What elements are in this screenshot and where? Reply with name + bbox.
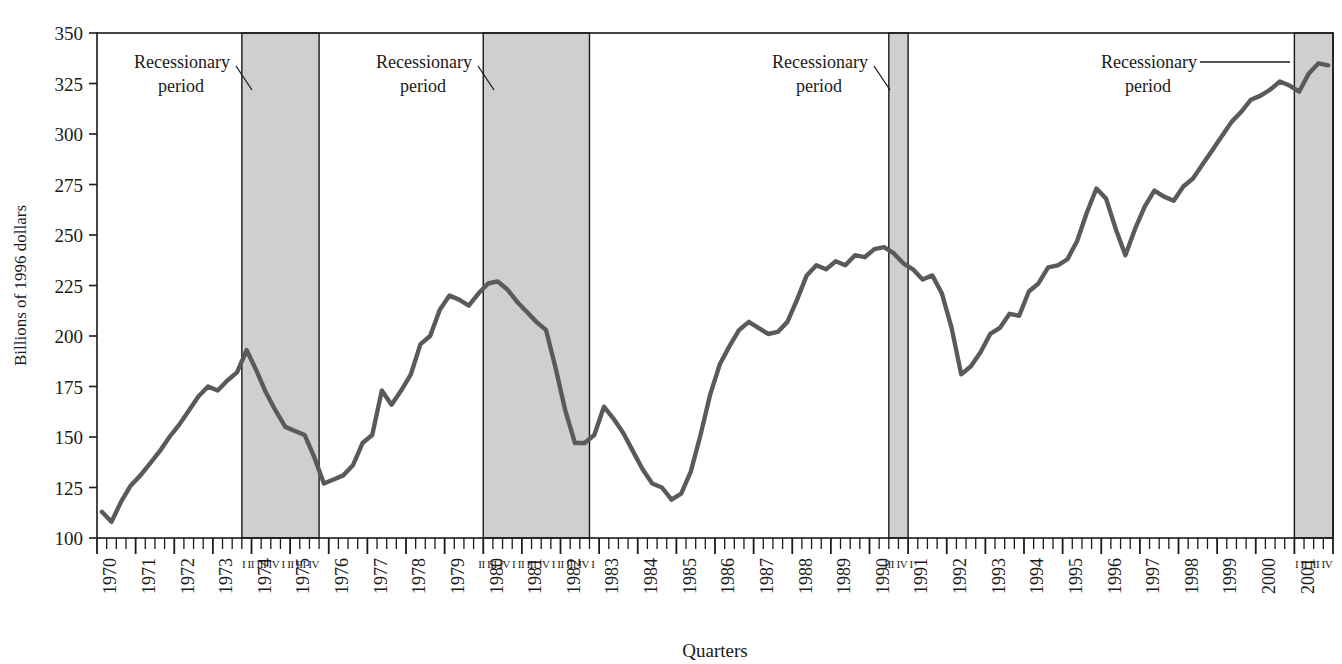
x-year-label: 1973 [216, 558, 236, 594]
recession-quarter-labels-4: I II III IV [1295, 558, 1333, 570]
y-tick-label: 300 [55, 124, 84, 145]
x-year-label: 1992 [950, 558, 970, 594]
recession-band-3 [889, 33, 908, 538]
y-tick-label: 325 [55, 74, 84, 95]
recession-annotation-line2-1: period [158, 76, 204, 96]
recession-quarter-labels-2: II III IV I II III IV I II III IV I [478, 558, 595, 570]
y-tick-label: 225 [55, 276, 84, 297]
x-year-label: 1997 [1143, 558, 1163, 594]
recession-leader-line-3 [874, 66, 890, 90]
x-year-label: 1988 [796, 558, 816, 594]
x-year-label: 1972 [178, 558, 198, 594]
x-year-label: 1999 [1220, 558, 1240, 594]
x-year-label: 1971 [139, 558, 159, 594]
recession-band-4 [1294, 33, 1333, 538]
recession-annotation-line2-2: period [400, 76, 446, 96]
x-year-label: 1976 [332, 558, 352, 594]
x-year-label: 1993 [989, 558, 1009, 594]
y-tick-label: 275 [55, 175, 84, 196]
recession-annotation-line1-3: Recessionary [772, 52, 868, 72]
x-year-label: 1998 [1182, 558, 1202, 594]
recession-annotation-line1-2: Recessionary [376, 52, 472, 72]
y-tick-label: 125 [55, 478, 84, 499]
y-tick-label: 250 [55, 225, 84, 246]
x-year-label: 1983 [602, 558, 622, 594]
x-axis-title: Quarters [682, 640, 747, 661]
quarter-labels: I II III IV I II III IVII III IV I II II… [242, 558, 1333, 570]
y-tick-label: 200 [55, 326, 84, 347]
x-year-label: 1970 [100, 558, 120, 594]
recession-band-1 [242, 33, 319, 538]
x-year-label: 1979 [448, 558, 468, 594]
recession-bands [242, 33, 1333, 538]
x-year-label: 1986 [718, 558, 738, 594]
x-year-label: 1977 [371, 558, 391, 594]
x-year-label: 1978 [409, 558, 429, 594]
x-year-label: 1987 [757, 558, 777, 594]
x-year-label: 1984 [641, 558, 661, 594]
recession-quarter-labels-3: III IV I [884, 558, 913, 570]
x-axis-ticks [97, 538, 1333, 554]
recession-annotation-line1-1: Recessionary [134, 52, 230, 72]
chart-figure: 100125150175200225250275300325350 Recess… [0, 0, 1342, 664]
x-year-label: 1995 [1066, 558, 1086, 594]
x-year-label: 1989 [834, 558, 854, 594]
y-tick-label: 350 [55, 23, 84, 44]
chart-canvas: 100125150175200225250275300325350 Recess… [0, 0, 1342, 664]
y-tick-label: 175 [55, 377, 84, 398]
y-tick-label: 150 [55, 427, 84, 448]
x-year-label: 1985 [680, 558, 700, 594]
y-axis-title: Billions of 1996 dollars [11, 205, 30, 366]
x-year-label: 1994 [1027, 558, 1047, 594]
x-year-label: 1991 [911, 558, 931, 594]
x-year-label: 2000 [1259, 558, 1279, 594]
recession-quarter-labels-1: I II III IV I II III IV [242, 558, 319, 570]
y-tick-label: 100 [55, 528, 84, 549]
recession-annotation-line2-3: period [796, 76, 842, 96]
x-year-label: 1996 [1105, 558, 1125, 594]
recession-annotation-line2-4: period [1125, 76, 1171, 96]
y-axis-ticks: 100125150175200225250275300325350 [55, 23, 98, 549]
recession-annotation-line1-4: Recessionary [1101, 52, 1197, 72]
